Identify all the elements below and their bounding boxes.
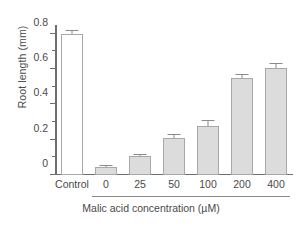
bar (163, 138, 184, 175)
x-tick-label: 50 (168, 178, 180, 190)
x-tick-label: Control (55, 178, 89, 190)
bar (265, 68, 286, 175)
y-tick-label: 0.6 (33, 51, 48, 63)
error-bar-cap (133, 154, 146, 155)
y-tick-label: 0.8 (33, 16, 48, 28)
plot-area: 00.20.40.60.8 (55, 25, 293, 175)
bar-series (55, 25, 293, 175)
bar (95, 167, 116, 175)
bar (231, 78, 252, 175)
error-bar-cap (235, 74, 248, 75)
bar (61, 34, 82, 175)
bar-group (197, 25, 218, 175)
x-tick-label: 0 (103, 178, 109, 190)
error-bar-cap (167, 134, 180, 135)
bar-group (61, 25, 82, 175)
x-axis-tick-labels: Control02550100200400 (55, 178, 293, 192)
bar-group (163, 25, 184, 175)
x-axis-title: Malic acid concentration (µM) (0, 202, 302, 214)
error-bar-cap (201, 120, 214, 121)
error-bar (173, 135, 174, 138)
x-tick-label: 25 (134, 178, 146, 190)
error-bar (105, 166, 106, 167)
error-bar (275, 64, 276, 68)
error-bar-cap (99, 165, 112, 166)
error-bar (207, 121, 208, 126)
x-tick-label: 200 (233, 178, 251, 190)
chart-figure: Root length (mm) 00.20.40.60.8 Control02… (0, 0, 302, 229)
y-tick-label: 0 (42, 157, 48, 169)
x-tick-label: 100 (199, 178, 217, 190)
y-axis-title: Root length (mm) (16, 0, 30, 137)
bar-group (95, 25, 116, 175)
bar (197, 126, 218, 175)
bar (129, 156, 150, 175)
error-bar-cap (269, 63, 282, 64)
x-tick-label: 400 (267, 178, 285, 190)
bar-group (129, 25, 150, 175)
y-tick-label: 0.2 (33, 122, 48, 134)
group-bracket-line (92, 196, 289, 197)
error-bar (241, 75, 242, 78)
error-bar (139, 155, 140, 156)
bar-group (231, 25, 252, 175)
y-tick-label: 0.4 (33, 86, 48, 98)
bar-group (265, 25, 286, 175)
error-bar (71, 31, 72, 34)
error-bar-cap (65, 30, 78, 31)
